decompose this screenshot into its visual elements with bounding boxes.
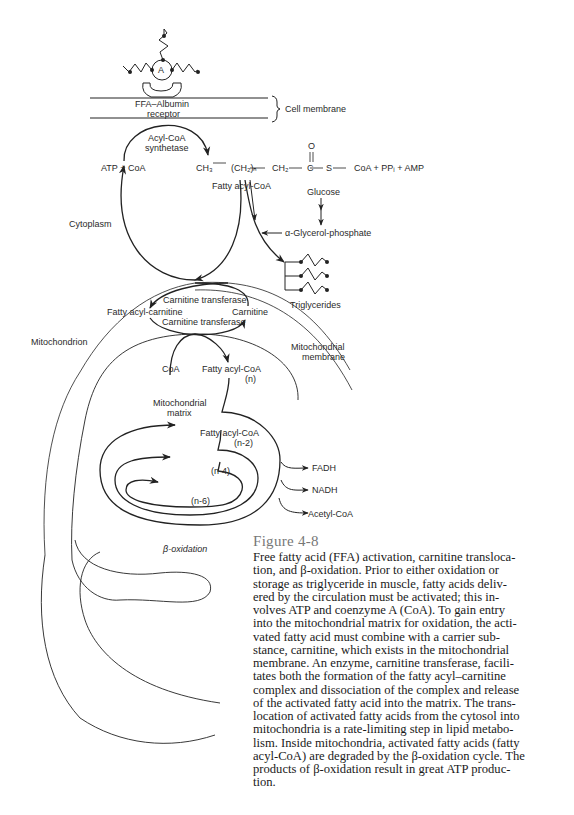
formula-tail: CoA + PPᵢ + AMP (354, 163, 424, 173)
synthetase-label-line1: Acyl-CoA (148, 133, 186, 143)
caption-line: ered by the circulation must be activate… (253, 591, 573, 604)
beta-oxidation-label: β-oxidation (163, 544, 207, 554)
albumin-complex-icon (123, 29, 198, 97)
carnitine-transferase-top: Carnitine transferase (163, 295, 247, 305)
fatty-acyl-coa-n2-label: Fatty acyl-CoA (200, 428, 259, 438)
caption-line: tion. (253, 776, 573, 789)
carnitine-label: Carnitine (232, 307, 268, 317)
figure-title: Figure 4-8 (253, 533, 573, 550)
triglycerides-label: Triglycerides (290, 300, 341, 310)
glucose-label: Glucose (307, 187, 340, 197)
receptor-label-line2: receptor (147, 109, 180, 119)
caption-line: storage as triglyceride in muscle, fatty… (253, 578, 573, 591)
caption-line: lism. Inside mitochondria, activated fat… (253, 737, 573, 750)
cell-membrane-label: Cell membrane (285, 104, 346, 114)
fatty-acyl-coa-label: Fatty acyl-CoA (212, 181, 271, 191)
caption-line: tates both the formation of the fatty ac… (253, 670, 573, 683)
coa-label: CoA (162, 364, 180, 374)
n4-label: (n-4) (211, 466, 230, 476)
formula-ch2n: (CH₂)ₙ (231, 163, 258, 173)
caption-body: Free fatty acid (FFA) activation, carnit… (253, 551, 573, 790)
caption-line: products of β-oxidation result in great … (253, 763, 573, 776)
caption-line: mitochondria is a rate-limiting step in … (253, 723, 573, 736)
caption-line: vated fatty acid must combine with a car… (253, 631, 573, 644)
nadh-label: NADH (312, 485, 338, 495)
mito-membrane-label-line2: membrane (302, 352, 345, 362)
caption-line: complex and dissociation of the complex … (253, 684, 573, 697)
acetyl-coa-label: Acetyl-CoA (308, 509, 353, 519)
formula-s: S (326, 163, 332, 173)
carnitine-transferase-bottom: Carnitine transferase (162, 317, 246, 327)
caption-line: acyl-CoA) are degraded by the β-oxidatio… (253, 750, 573, 763)
mito-matrix-label-line1: Mitochondrial (153, 398, 207, 408)
fatty-acyl-coa-n-label: Fatty acyl-CoA (202, 364, 261, 374)
albumin-label: A (158, 65, 164, 75)
synthetase-label-line2: synthetase (145, 143, 189, 153)
fatty-acyl-coa-n-index: (n) (245, 374, 256, 384)
caption-line: Free fatty acid (FFA) activation, carnit… (253, 551, 573, 564)
fadh-label: FADH (312, 463, 336, 473)
n6-label: (n-6) (191, 496, 210, 506)
receptor-label-line1: FFA–Albumin (135, 99, 189, 109)
cytoplasm-label: Cytoplasm (69, 219, 112, 229)
caption-line: volves ATP and coenzyme A (CoA). To gain… (253, 604, 573, 617)
formula-ch2: CH₂ (272, 163, 289, 173)
caption-line: tion, and β-oxidation. Prior to either o… (253, 564, 573, 577)
formula-o: O (308, 141, 315, 151)
mito-matrix-label-line2: matrix (167, 408, 192, 418)
fatty-acyl-coa-n2-index: (n-2) (234, 438, 253, 448)
formula-ch3: CH₃ (196, 163, 213, 173)
caption-line: of the activated fatty acid into the mat… (253, 697, 573, 710)
caption-line: stance, carnitine, which exists in the m… (253, 644, 573, 657)
caption-line: into the mitochondrial matrix for oxidat… (253, 617, 573, 630)
triglycerides-icon (285, 254, 327, 294)
atp-coa-label: ATP + CoA (101, 163, 145, 173)
formula-c: C (307, 163, 314, 173)
caption-line: membrane. An enzyme, carnitine transfera… (253, 657, 573, 670)
mitochondrion-label: Mitochondrion (31, 337, 88, 347)
mito-membrane-label-line1: Mitochondrial (291, 342, 345, 352)
figure-caption: Figure 4-8 Free fatty acid (FFA) activat… (253, 533, 573, 790)
caption-line: location of activated fatty acids from t… (253, 710, 573, 723)
fatty-acyl-carnitine-label: Fatty acyl-carnitine (107, 307, 183, 317)
glycerol-phosphate-label: α-Glycerol-phosphate (285, 228, 371, 238)
